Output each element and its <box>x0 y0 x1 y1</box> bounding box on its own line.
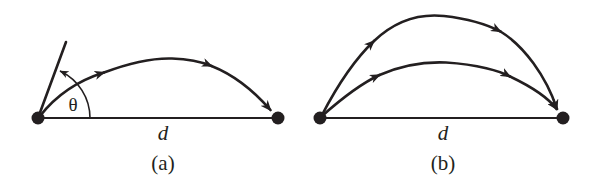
panel-caption-b: (b) <box>431 153 456 174</box>
distance-label-a: d <box>158 123 169 144</box>
high-angle-path-b-seg2 <box>374 16 501 41</box>
angle-theta-label: θ <box>68 95 77 114</box>
projectile-path-a-seg3 <box>212 66 271 110</box>
high-angle-path-b-seg3 <box>501 32 558 110</box>
projectile-motion-figure: θ d (a) d (b) <box>0 0 592 189</box>
panel-b <box>314 16 570 125</box>
low-angle-path-b-seg2 <box>380 62 511 76</box>
panel-caption-a: (a) <box>151 153 174 174</box>
high-angle-path-b-seg1 <box>322 41 374 115</box>
landing-point-a <box>272 112 285 125</box>
launch-point-a <box>32 112 45 125</box>
initial-velocity-line-a <box>38 42 66 118</box>
figure-canvas <box>0 0 592 189</box>
low-angle-path-b-seg1 <box>322 75 380 116</box>
distance-label-b: d <box>438 123 449 144</box>
launch-point-b <box>314 112 327 125</box>
projectile-path-a-seg2 <box>104 58 212 72</box>
landing-point-b <box>557 112 570 125</box>
